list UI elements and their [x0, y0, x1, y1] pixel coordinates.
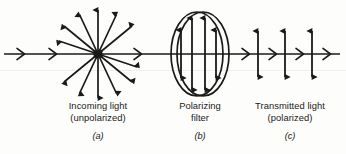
caption-line-primary: Polarizing — [160, 100, 240, 112]
caption-line-secondary: (polarized) — [234, 112, 346, 124]
caption-line-secondary: filter — [160, 112, 240, 124]
caption-polarizing-filter: Polarizing filter — [160, 100, 240, 123]
burst-arrow — [98, 54, 132, 82]
burst-arrow — [64, 54, 98, 82]
caption-line-secondary: (unpolarized) — [32, 112, 164, 124]
panel-letter-b: (b) — [160, 131, 240, 142]
caption-incoming-light: Incoming light (unpolarized) — [32, 100, 164, 123]
polarization-figure: Incoming light (unpolarized) Polarizing … — [0, 0, 346, 154]
caption-transmitted-light: Transmitted light (polarized) — [234, 100, 346, 123]
burst-arrow — [64, 26, 98, 54]
panel-letter-a: (a) — [32, 131, 164, 142]
caption-line-primary: Incoming light — [32, 100, 164, 112]
burst-arrow — [98, 15, 117, 55]
burst-arrow — [80, 54, 99, 94]
burst-arrow — [98, 26, 132, 54]
caption-line-primary: Transmitted light — [234, 100, 346, 112]
panel-letter-c: (c) — [234, 131, 346, 142]
